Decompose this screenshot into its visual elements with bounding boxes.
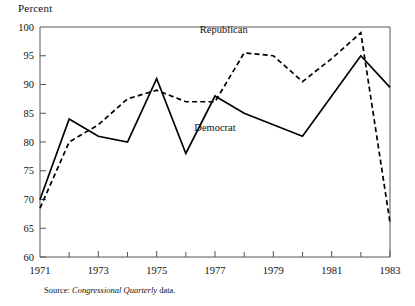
x-tick-label: 1975 — [146, 265, 167, 276]
source-label: Source: — [44, 285, 70, 295]
y-tick-label: 80 — [24, 137, 35, 148]
y-tick-label: 60 — [24, 252, 35, 263]
y-tick-label: 100 — [18, 22, 34, 33]
y-tick-label: 70 — [24, 194, 35, 205]
chart-figure: Percent 6065707580859095100 197119731975… — [0, 0, 415, 306]
y-tick-label: 90 — [24, 79, 35, 90]
x-tick-label: 1983 — [380, 265, 401, 276]
x-tick-label: 1971 — [30, 265, 51, 276]
plot-frame — [40, 27, 390, 257]
y-tick-label: 65 — [24, 223, 35, 234]
y-tick-label: 85 — [24, 108, 35, 119]
y-tick-label: 95 — [24, 50, 35, 61]
x-tick-label: 1977 — [205, 265, 226, 276]
source-publication: Congressional Quarterly — [72, 285, 157, 295]
series-label-republican: Republican — [200, 24, 249, 35]
y-tick-label: 75 — [24, 165, 35, 176]
source-suffix: data. — [157, 285, 175, 295]
x-tick-label: 1981 — [321, 265, 342, 276]
series-label-democrat: Democrat — [194, 122, 235, 133]
line-chart-plot: 6065707580859095100 19711973197519771979… — [0, 0, 415, 306]
source-note: Source: Congressional Quarterly data. — [44, 285, 175, 295]
x-tick-label: 1979 — [263, 265, 284, 276]
y-axis-ticks: 6065707580859095100 — [18, 22, 46, 263]
x-tick-label: 1973 — [88, 265, 109, 276]
x-axis-ticks: 1971197319751977197919811983 — [30, 251, 401, 276]
